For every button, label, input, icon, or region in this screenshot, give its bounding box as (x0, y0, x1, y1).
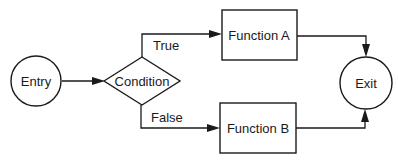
function-a-label: Function A (228, 28, 290, 43)
function-b-label: Function B (227, 121, 289, 136)
edge-true-branch: True (142, 30, 222, 57)
flowchart-diagram: True False Entry Condition Function A Fu… (0, 0, 398, 162)
arrowhead-icon (209, 30, 222, 38)
edge-false-branch: False (141, 105, 220, 132)
edge-b-to-exit (296, 109, 369, 128)
arrowhead-icon (207, 124, 220, 132)
node-entry: Entry (11, 56, 61, 106)
condition-label: Condition (115, 74, 170, 89)
node-function-a: Function A (222, 10, 297, 60)
edge-a-to-exit (297, 36, 370, 57)
node-exit: Exit (340, 57, 392, 109)
node-function-b: Function B (220, 103, 296, 153)
exit-label: Exit (355, 76, 377, 91)
arrowhead-icon (362, 44, 370, 57)
arrowhead-icon (361, 109, 369, 122)
true-label: True (153, 38, 179, 53)
edge-entry-to-condition (62, 77, 105, 85)
entry-label: Entry (21, 74, 52, 89)
node-condition: Condition (104, 57, 180, 105)
false-label: False (151, 110, 183, 125)
